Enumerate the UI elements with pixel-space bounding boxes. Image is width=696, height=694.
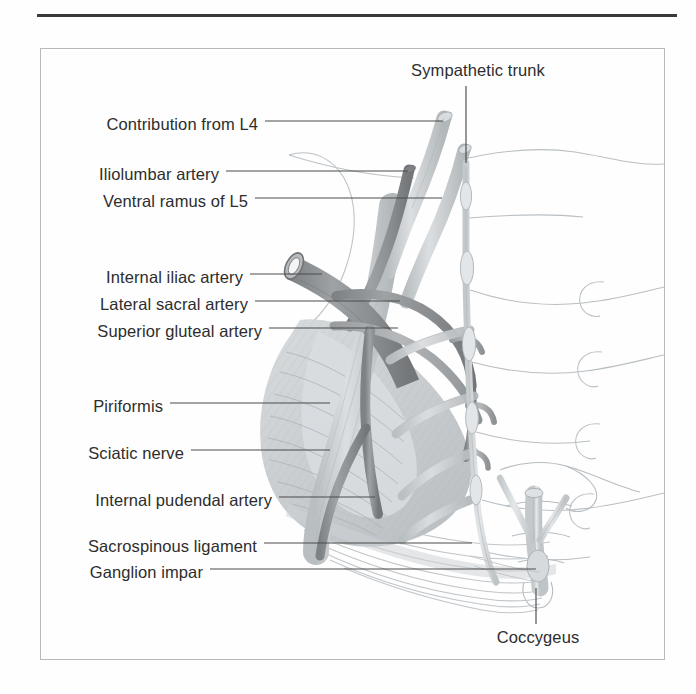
label-internal-iliac-artery: Internal iliac artery — [106, 268, 243, 287]
label-ganglion-impar: Ganglion impar — [90, 563, 203, 582]
sacral-foramina — [570, 282, 604, 529]
label-sciatic-nerve: Sciatic nerve — [88, 444, 184, 463]
label-contribution-from-l4: Contribution from L4 — [107, 115, 259, 134]
label-piriformis: Piriformis — [93, 397, 163, 416]
page-canvas: Contribution from L4 Iliolumbar artery V… — [0, 0, 696, 694]
label-sympathetic-trunk: Sympathetic trunk — [411, 61, 545, 80]
label-superior-gluteal-artery: Superior gluteal artery — [97, 322, 262, 341]
coccyx-outline — [500, 463, 640, 608]
label-iliolumbar-artery: Iliolumbar artery — [99, 165, 219, 184]
label-coccygeus: Coccygeus — [497, 628, 580, 647]
label-sacrospinous-ligament: Sacrospinous ligament — [88, 537, 257, 556]
sacrum-outlines — [456, 150, 664, 560]
anatomy-artwork — [0, 0, 696, 694]
label-lateral-sacral-artery: Lateral sacral artery — [100, 295, 248, 314]
label-ventral-ramus-of-l5: Ventral ramus of L5 — [103, 192, 248, 211]
label-internal-pudendal-artery: Internal pudendal artery — [95, 491, 272, 510]
sympathetic-trunk — [460, 163, 496, 582]
contribution-from-l4-nerve — [388, 110, 454, 272]
